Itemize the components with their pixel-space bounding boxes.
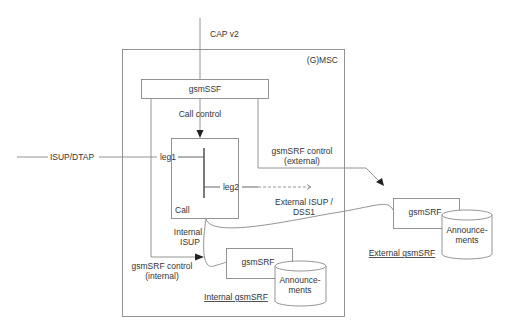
gsmssf-label: gsmSSF	[189, 84, 222, 94]
internal-isup-label-2: ISUP	[180, 237, 200, 247]
external-isup-label-2: DSS1	[293, 207, 315, 217]
internal-announcements-label-1: Announce-	[279, 275, 320, 285]
srf-control-internal-label-2: (internal)	[145, 271, 179, 281]
call-control-label: Call control	[179, 109, 222, 119]
srf-control-external-label-2: (external)	[284, 156, 320, 166]
cap-label: CAP v2	[210, 29, 239, 39]
call-label: Call	[175, 205, 190, 215]
internal-isup-label-1: Internal	[174, 227, 202, 237]
isup-dtap-label: ISUP/DTAP	[50, 152, 95, 162]
camel-srf-diagram: (G)MSC CAP v2 gsmSSF Call control Call I…	[0, 0, 512, 333]
internal-gsmsrf-label: gsmSRF	[241, 257, 274, 267]
external-announcements-label-1: Announce-	[446, 225, 487, 235]
internal-gsmsrf-caption: Internal gsmSRF	[204, 292, 268, 302]
srf-control-internal-label-1: gsmSRF control	[132, 261, 193, 271]
leg1-label: leg1	[160, 152, 176, 162]
external-gsmsrf-caption: External gsmSRF	[369, 248, 436, 258]
srf-control-external-label-1: gsmSRF control	[272, 146, 333, 156]
internal-announcements-label-2: ments	[288, 285, 311, 295]
external-announcements-label-2: ments	[455, 235, 478, 245]
external-gsmsrf-label: gsmSRF	[408, 207, 441, 217]
external-isup-label-1: External ISUP /	[275, 197, 334, 207]
leg2-label: leg2	[223, 182, 239, 192]
gmsc-label: (G)MSC	[307, 55, 338, 65]
